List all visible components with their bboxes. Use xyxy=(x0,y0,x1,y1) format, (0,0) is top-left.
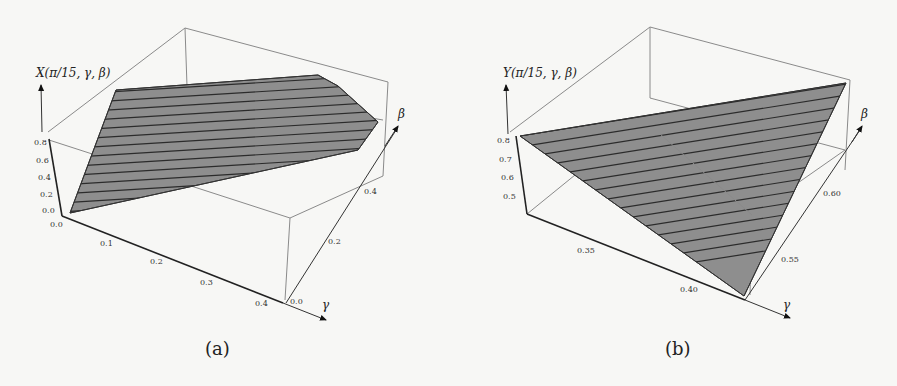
svg-text:0.60: 0.60 xyxy=(823,189,841,198)
panel-b-z-arrow xyxy=(506,85,508,134)
svg-text:0.35: 0.35 xyxy=(577,246,595,255)
panel-a-z-label: X(π/15, γ, β) xyxy=(35,66,111,80)
panel-a-z-ticks: 0.8 0.6 0.4 0.2 0.0 0.0 xyxy=(34,138,63,229)
svg-text:0.0: 0.0 xyxy=(290,297,303,306)
panel-a-gamma-ticks: 0.1 0.2 0.3 0.4 0.0 xyxy=(100,239,303,308)
svg-text:0.8: 0.8 xyxy=(497,136,510,145)
panel-b-caption: (b) xyxy=(665,338,691,359)
svg-text:0.5: 0.5 xyxy=(503,192,516,201)
panel-b-z-ticks: 0.8 0.7 0.6 0.5 xyxy=(497,136,516,201)
svg-text:0.2: 0.2 xyxy=(328,237,341,246)
panel-a-beta-ticks: 0.4 0.2 xyxy=(328,187,377,246)
panel-a-gamma-axis xyxy=(62,216,283,303)
svg-text:0.6: 0.6 xyxy=(501,173,514,182)
svg-text:0.1: 0.1 xyxy=(100,239,113,248)
svg-text:0.3: 0.3 xyxy=(200,278,213,287)
svg-text:0.0: 0.0 xyxy=(50,220,63,229)
svg-text:0.40: 0.40 xyxy=(680,285,698,294)
svg-text:0.4: 0.4 xyxy=(255,299,268,308)
svg-text:0.4: 0.4 xyxy=(38,173,51,182)
svg-text:0.55: 0.55 xyxy=(781,255,799,264)
panel-a-gamma-label: γ xyxy=(322,298,330,312)
svg-text:0.8: 0.8 xyxy=(34,138,47,147)
panel-b-gamma-ticks: 0.35 0.40 xyxy=(577,246,698,294)
svg-text:0.2: 0.2 xyxy=(40,190,53,199)
panel-a-beta-label: β xyxy=(397,107,405,121)
figure: X(π/15, γ, β) β γ 0.8 0.6 0.4 0.2 0.0 0.… xyxy=(0,0,897,386)
panel-a-z-arrow xyxy=(41,85,42,132)
panel-b-beta-label: β xyxy=(860,107,868,121)
svg-text:0.0: 0.0 xyxy=(42,206,55,215)
panel-a-caption: (a) xyxy=(205,338,230,359)
panel-a-z-axis xyxy=(49,139,62,216)
panel-a-beta-arrow xyxy=(385,126,398,146)
panel-b-z-axis xyxy=(516,136,527,214)
svg-text:0.7: 0.7 xyxy=(499,155,512,164)
svg-text:0.6: 0.6 xyxy=(36,156,49,165)
panel-b-z-label: Y(π/15, γ, β) xyxy=(503,66,577,80)
svg-text:0.2: 0.2 xyxy=(150,257,163,266)
panel-b: Y(π/15, γ, β) β γ 0.8 0.7 0.6 0.5 0.35 0… xyxy=(497,27,868,359)
panel-b-gamma-label: γ xyxy=(783,298,791,312)
panel-b-surface xyxy=(500,82,860,296)
panel-a: X(π/15, γ, β) β γ 0.8 0.6 0.4 0.2 0.0 0.… xyxy=(34,28,405,359)
panel-b-beta-arrow xyxy=(852,126,862,142)
svg-text:0.4: 0.4 xyxy=(364,187,377,196)
panel-a-surface xyxy=(60,74,400,213)
